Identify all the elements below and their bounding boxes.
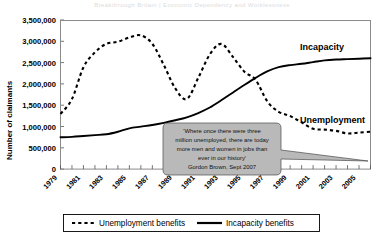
x-tick-label: 2005 [340,173,358,191]
y-tick-label: 0 [52,165,56,174]
x-tick-label: 1997 [248,173,266,191]
y-tick-label: 2,500,000 [22,59,56,68]
chart-figure: Breakthrough Britain | Economic Dependen… [0,0,384,241]
x-tick-label: 1991 [179,173,197,191]
callout-line: more men and women in jobs than [177,146,267,152]
x-tick-label: 1993 [202,173,220,191]
x-tick-label: 2003 [317,173,335,191]
series-annotation-incapacity: Incapacity [300,42,344,52]
x-axis-tick-labels: 1979198119831985198719891991199319951997… [41,173,357,191]
x-tick-label: 1987 [133,173,151,191]
x-tick-label: 1979 [41,173,59,191]
line-chart: Number of claimants 3,500,000 3,000,000 … [0,0,384,241]
y-tick-label: 3,000,000 [22,37,56,46]
y-tick-label: 2,000,000 [22,80,56,89]
legend-label-incapacity[interactable]: Incapacity benefits [226,219,294,228]
x-tick-label: 1985 [110,173,128,191]
legend-label-unemployment[interactable]: Unemployment benefits [99,219,185,228]
callout-line: ever in our history' [198,155,246,161]
y-tick-label: 3,500,000 [22,16,56,25]
x-tick-label: 1999 [271,173,289,191]
x-tick-label: 1983 [87,173,105,191]
series-annotation-unemployment: Unemployment [300,115,365,125]
x-tick-label: 1995 [225,173,243,191]
y-tick-label: 1,000,000 [22,123,56,132]
callout-line: 'Where once there were three [183,128,261,134]
x-tick-label: 1981 [64,173,82,191]
y-tick-label: 500,000 [29,144,56,153]
y-tick-label: 1,500,000 [22,101,56,110]
callout-line: million unemployed, there are today [175,137,268,143]
x-tick-label: 2001 [294,173,312,191]
y-axis-title: Number of claimants [5,80,14,160]
chart-legend: Unemployment benefits Incapacity benefit… [64,215,320,232]
x-tick-label: 1989 [156,173,174,191]
callout-attribution: Gordon Brown, Sept 2007 [188,164,256,170]
y-axis-tick-labels: 3,500,000 3,000,000 2,500,000 2,000,000 … [22,16,56,174]
